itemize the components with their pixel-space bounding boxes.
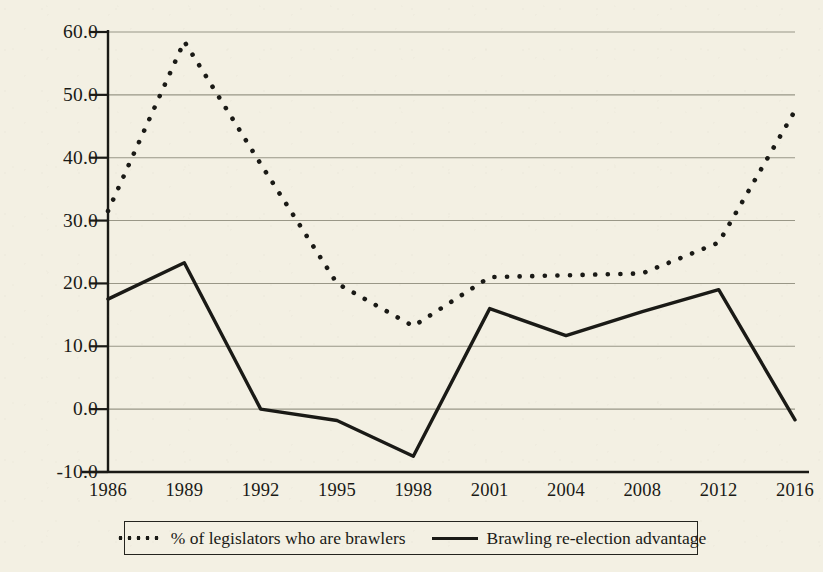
legend-label-brawlers: % of legislators who are brawlers xyxy=(171,528,406,549)
x-tick-label: 2012 xyxy=(700,480,738,501)
x-tick-label: 1986 xyxy=(89,480,127,501)
x-tick-label: 1989 xyxy=(165,480,203,501)
solid-line-swatch-icon xyxy=(432,537,478,540)
x-tick-label: 2001 xyxy=(471,480,509,501)
x-tick-label: 1995 xyxy=(318,480,356,501)
x-tick-label: 2008 xyxy=(623,480,661,501)
chart-figure: -10.00.010.020.030.040.050.060.0 1986198… xyxy=(0,0,823,572)
x-tick-label: 1992 xyxy=(242,480,280,501)
legend-item-advantage: Brawling re-election advantage xyxy=(432,528,707,549)
chart-legend: % of legislators who are brawlers Brawli… xyxy=(124,521,698,555)
legend-item-brawlers: % of legislators who are brawlers xyxy=(116,528,406,549)
x-tick-label: 1998 xyxy=(394,480,432,501)
x-tick-label: 2004 xyxy=(547,480,585,501)
x-tick-label: 2016 xyxy=(776,480,814,501)
legend-label-advantage: Brawling re-election advantage xyxy=(487,528,707,549)
dotted-line-swatch-icon xyxy=(116,536,162,540)
series-line-advantage xyxy=(108,263,795,457)
